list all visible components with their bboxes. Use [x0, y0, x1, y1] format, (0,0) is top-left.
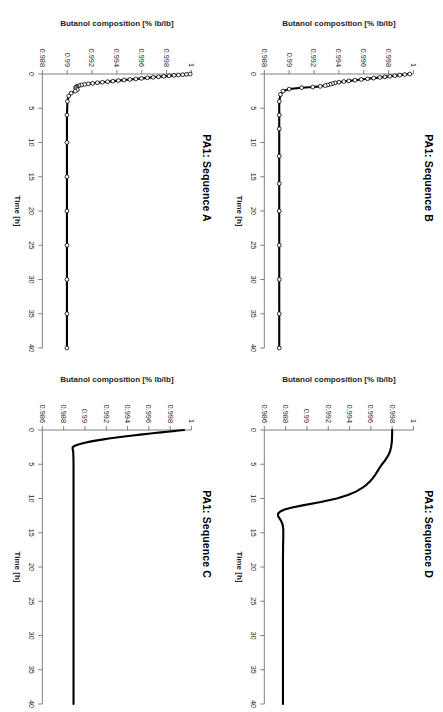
- x-axis-title: Time [h]: [235, 552, 244, 583]
- x-tick-label: 20: [249, 207, 258, 215]
- x-tick-label: 25: [27, 241, 36, 249]
- y-tick-label: 0.99: [284, 53, 293, 67]
- y-tick-label: 0.996: [137, 49, 146, 67]
- series-marker: [387, 74, 391, 78]
- x-tick-label: 0: [249, 428, 258, 432]
- series-marker: [95, 81, 99, 85]
- series-marker: [65, 312, 69, 316]
- y-axis-title: Butanol composition [% lb/lb]: [60, 375, 174, 384]
- series-marker: [65, 141, 69, 145]
- y-tick-label: 0.998: [166, 405, 175, 423]
- series-marker: [176, 73, 180, 77]
- series-marker: [167, 74, 171, 78]
- y-tick-label: 1: [408, 419, 417, 423]
- series-marker: [341, 80, 345, 84]
- x-tick-label: 35: [249, 310, 258, 318]
- chart-root: 0510152025303540Time [h]0.9860.9880.990.…: [13, 375, 196, 708]
- x-tick-label: 40: [27, 344, 36, 352]
- y-tick-label: 0.994: [344, 405, 353, 423]
- x-tick-label: 30: [249, 275, 258, 283]
- y-tick-label: 0.99: [80, 409, 89, 423]
- y-tick-label: 0.998: [383, 49, 392, 67]
- x-tick-label: 0: [27, 72, 36, 76]
- y-tick-label: 0.992: [102, 405, 111, 423]
- series-marker: [382, 75, 386, 79]
- x-tick-label: 10: [27, 138, 36, 146]
- x-tick-label: 20: [27, 207, 36, 215]
- series-marker: [66, 100, 70, 104]
- series-marker: [277, 312, 281, 316]
- figure-rotated-canvas: PA1: Sequence B 0510152025303540Time [h]…: [0, 0, 443, 712]
- series-marker: [65, 243, 69, 247]
- series-line: [67, 74, 190, 348]
- x-tick-label: 5: [27, 462, 36, 466]
- series-marker: [128, 78, 132, 82]
- series-marker: [162, 74, 166, 78]
- y-tick-label: 0.992: [309, 49, 318, 67]
- x-tick-label: 5: [249, 106, 258, 110]
- series-marker: [277, 127, 281, 131]
- series-marker: [277, 182, 281, 186]
- y-tick-label: 0.988: [59, 405, 68, 423]
- x-tick-label: 0: [27, 428, 36, 432]
- series-marker: [318, 84, 322, 88]
- series-marker: [65, 113, 69, 117]
- x-tick-label: 40: [27, 700, 36, 708]
- y-tick-label: 0.988: [259, 49, 268, 67]
- series-marker: [151, 75, 155, 79]
- x-axis-title: Time [h]: [13, 196, 22, 227]
- x-tick-label: 15: [27, 173, 36, 181]
- x-tick-label: 5: [249, 462, 258, 466]
- chart-panel-a: PA1: Sequence A 0510152025303540Time [h]…: [0, 0, 222, 356]
- y-tick-label: 1: [187, 63, 196, 67]
- y-tick-label: 0.988: [280, 405, 289, 423]
- plot-svg-a: 0510152025303540Time [h]0.9880.990.9920.…: [0, 0, 198, 356]
- series-marker: [145, 76, 149, 80]
- x-tick-label: 30: [249, 631, 258, 639]
- series-marker: [402, 73, 406, 77]
- x-tick-label: 10: [27, 494, 36, 502]
- series-marker: [346, 79, 350, 83]
- figure-frame: PA1: Sequence B 0510152025303540Time [h]…: [0, 0, 443, 712]
- y-tick-label: 1: [408, 63, 417, 67]
- x-axis-title: Time [h]: [13, 552, 22, 583]
- x-tick-label: 20: [27, 563, 36, 571]
- y-tick-label: 0.992: [87, 49, 96, 67]
- plot-area-d: 0510152025303540Time [h]0.9860.9880.990.…: [222, 356, 420, 712]
- plot-area-b: 0510152025303540Time [h]0.9880.990.9920.…: [222, 0, 420, 356]
- chart-root: 0510152025303540Time [h]0.9880.990.9920.…: [235, 19, 418, 352]
- y-tick-label: 0.992: [323, 405, 332, 423]
- x-tick-label: 30: [27, 631, 36, 639]
- plot-svg-c: 0510152025303540Time [h]0.9860.9880.990.…: [0, 356, 198, 712]
- x-tick-label: 0: [249, 72, 258, 76]
- series-marker: [310, 85, 314, 89]
- series-marker: [371, 76, 375, 80]
- plot-svg-d: 0510152025303540Time [h]0.9860.9880.990.…: [222, 356, 420, 712]
- series-marker: [67, 94, 71, 98]
- y-tick-label: 1: [187, 419, 196, 423]
- series-marker: [100, 80, 104, 84]
- x-tick-label: 40: [249, 344, 258, 352]
- series-marker: [277, 278, 281, 282]
- series-marker: [172, 73, 176, 77]
- y-tick-label: 0.994: [112, 49, 121, 67]
- series-marker: [277, 154, 281, 158]
- panel-title: PA1: Sequence B: [422, 0, 434, 356]
- y-tick-label: 0.988: [38, 49, 47, 67]
- x-tick-label: 30: [27, 275, 36, 283]
- panel-title: PA1: Sequence D: [422, 356, 434, 712]
- x-tick-label: 15: [249, 173, 258, 181]
- y-tick-label: 0.99: [63, 53, 72, 67]
- series-marker: [134, 77, 138, 81]
- x-tick-label: 25: [249, 241, 258, 249]
- y-tick-label: 0.994: [123, 405, 132, 423]
- series-marker: [65, 278, 69, 282]
- y-tick-label: 0.996: [366, 405, 375, 423]
- x-tick-label: 10: [249, 494, 258, 502]
- series-line: [277, 430, 391, 704]
- x-tick-label: 35: [27, 666, 36, 674]
- series-marker: [299, 86, 303, 90]
- plot-area-c: 0510152025303540Time [h]0.9860.9880.990.…: [0, 356, 198, 712]
- x-tick-label: 10: [249, 138, 258, 146]
- x-tick-label: 35: [249, 666, 258, 674]
